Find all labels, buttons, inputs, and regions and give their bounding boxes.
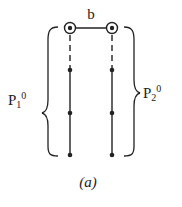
left-top-node <box>65 23 76 34</box>
right-top-node <box>107 23 118 34</box>
left-group-label: P10 <box>8 90 26 110</box>
left-brace <box>42 27 58 156</box>
diagram-canvas: b P10 P20 (a) <box>0 0 182 207</box>
bond-label: b <box>87 6 95 22</box>
right-brace <box>124 27 140 156</box>
figure-caption: (a) <box>79 174 97 191</box>
right-group-label: P20 <box>143 83 161 103</box>
